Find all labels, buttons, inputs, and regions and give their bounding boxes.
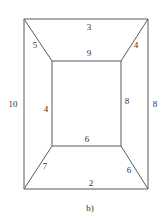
figure-caption: b) xyxy=(86,203,94,213)
label-outer-bottom: 2 xyxy=(89,178,94,188)
graph-diagram: 3 9 5 4 10 4 8 8 6 7 6 2 b) xyxy=(0,0,167,220)
label-outer-left: 10 xyxy=(9,99,19,109)
label-outer-top: 3 xyxy=(87,22,92,32)
label-inner-left: 4 xyxy=(44,104,49,114)
label-diag-top-left: 5 xyxy=(33,40,38,50)
label-diag-bottom-left: 7 xyxy=(43,161,48,171)
edge-labels: 3 9 5 4 10 4 8 8 6 7 6 2 xyxy=(9,22,158,188)
edge-diag-bottom-left xyxy=(24,146,52,189)
label-inner-top: 9 xyxy=(87,48,92,58)
label-diag-bottom-right: 6 xyxy=(127,165,132,175)
edge-diag-top-left xyxy=(24,19,52,61)
label-inner-right: 8 xyxy=(125,96,130,106)
edge-diag-bottom-right xyxy=(121,146,148,189)
label-outer-right: 8 xyxy=(153,99,158,109)
label-inner-bottom: 6 xyxy=(85,134,90,144)
label-diag-top-right: 4 xyxy=(134,40,139,50)
